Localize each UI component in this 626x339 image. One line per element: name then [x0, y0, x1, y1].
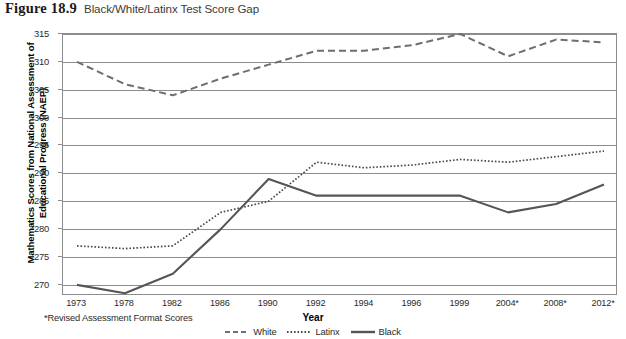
- y-tick-label: 315: [15, 28, 49, 39]
- legend-label: Latinx: [315, 326, 339, 337]
- y-tick-label: 290: [15, 167, 49, 178]
- legend-swatch-latinx-icon: [287, 328, 311, 336]
- figure-number: Figure 18.9: [5, 0, 77, 17]
- x-tick-label: 1996: [402, 298, 422, 308]
- legend-label: Black: [379, 326, 401, 337]
- y-tick-mark: [58, 200, 62, 201]
- y-tick-mark: [58, 33, 62, 34]
- legend-item-white[interactable]: White: [225, 326, 276, 337]
- x-tick-label: 1992: [306, 298, 326, 308]
- x-tick-label: 1978: [114, 298, 134, 308]
- legend-swatch-white-icon: [225, 328, 249, 336]
- y-tick-mark: [58, 284, 62, 285]
- legend-item-black[interactable]: Black: [351, 326, 401, 337]
- figure-caption: Black/White/Latinx Test Score Gap: [84, 2, 259, 15]
- y-tick-mark: [58, 61, 62, 62]
- figure-title: Figure 18.9 Black/White/Latinx Test Scor…: [5, 0, 259, 17]
- x-tick-label: 1990: [258, 298, 278, 308]
- x-tick-label: 1994: [354, 298, 374, 308]
- x-tick-label: 1999: [449, 298, 469, 308]
- y-axis-ticks: 270275280285290295300305310315: [62, 33, 617, 295]
- y-tick-mark: [58, 228, 62, 229]
- y-tick-label: 280: [15, 223, 49, 234]
- x-tick-label: 2012*: [591, 298, 614, 308]
- legend-swatch-black-icon: [351, 328, 375, 336]
- y-tick-mark: [58, 256, 62, 257]
- x-tick-label: 2004*: [496, 298, 519, 308]
- chart-legend: WhiteLatinxBlack: [0, 326, 626, 337]
- x-tick-label: 1986: [210, 298, 230, 308]
- y-tick-mark: [58, 89, 62, 90]
- y-tick-label: 275: [15, 250, 49, 261]
- figure-container: Figure 18.9 Black/White/Latinx Test Scor…: [0, 0, 626, 339]
- y-tick-label: 285: [15, 195, 49, 206]
- y-tick-mark: [58, 172, 62, 173]
- x-axis-title: Year: [0, 312, 626, 323]
- x-tick-label: 2008*: [544, 298, 567, 308]
- y-tick-label: 270: [15, 278, 49, 289]
- y-tick-mark: [58, 117, 62, 118]
- y-tick-label: 305: [15, 83, 49, 94]
- x-tick-label: 1973: [66, 298, 86, 308]
- y-tick-label: 310: [15, 55, 49, 66]
- y-tick-label: 295: [15, 139, 49, 150]
- x-tick-label: 1982: [162, 298, 182, 308]
- y-tick-label: 300: [15, 111, 49, 122]
- y-tick-mark: [58, 144, 62, 145]
- x-axis-ticks: 1973197819821986199019921994199619992004…: [62, 298, 617, 312]
- legend-item-latinx[interactable]: Latinx: [287, 326, 339, 337]
- legend-label: White: [253, 326, 276, 337]
